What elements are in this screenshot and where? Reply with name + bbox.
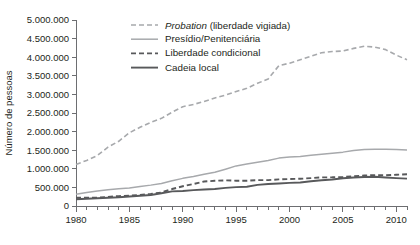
y-tick-label: 2.500.000 (27, 107, 69, 118)
x-tick-label: 2010 (386, 214, 407, 225)
legend-label-3: Cadeia local (165, 62, 219, 73)
y-tick-label: 1.000.000 (27, 163, 69, 174)
y-tick-label: 1.500.000 (27, 145, 69, 156)
x-axis-tick-labels: 1980198519901995200020052010 (65, 214, 406, 225)
y-tick-label: 4.500.000 (27, 33, 69, 44)
x-tick-label: 2005 (332, 214, 353, 225)
chart-container: 0500.0001.000.0001.500.0002.000.0002.500… (0, 0, 420, 245)
x-tick-label: 1980 (65, 214, 86, 225)
data-series (76, 46, 407, 199)
x-tick-label: 1990 (172, 214, 193, 225)
x-tick-label: 2000 (279, 214, 300, 225)
x-tick-label: 1995 (226, 214, 247, 225)
y-axis-tick-labels: 0500.0001.000.0001.500.0002.000.0002.500… (27, 14, 69, 211)
y-tick-label: 3.000.000 (27, 89, 69, 100)
chart-legend: Probation (liberdade vigiada)Presídio/Pe… (131, 19, 290, 73)
y-tick-label: 0 (64, 200, 69, 211)
series-line-0 (76, 46, 407, 164)
x-tick-label: 1985 (119, 214, 140, 225)
legend-label-1: Presídio/Penitenciária (165, 33, 261, 44)
y-axis-title: Número de pessoas (3, 70, 14, 155)
y-tick-label: 5.000.000 (27, 14, 69, 25)
y-tick-label: 3.500.000 (27, 70, 69, 81)
legend-label-2: Liberdade condicional (165, 47, 260, 58)
y-tick-label: 4.000.000 (27, 52, 69, 63)
y-tick-label: 2.000.000 (27, 126, 69, 137)
y-tick-label: 500.000 (35, 182, 69, 193)
line-chart: 0500.0001.000.0001.500.0002.000.0002.500… (0, 0, 420, 245)
legend-label-0: Probation (liberdade vigiada) (165, 19, 290, 30)
